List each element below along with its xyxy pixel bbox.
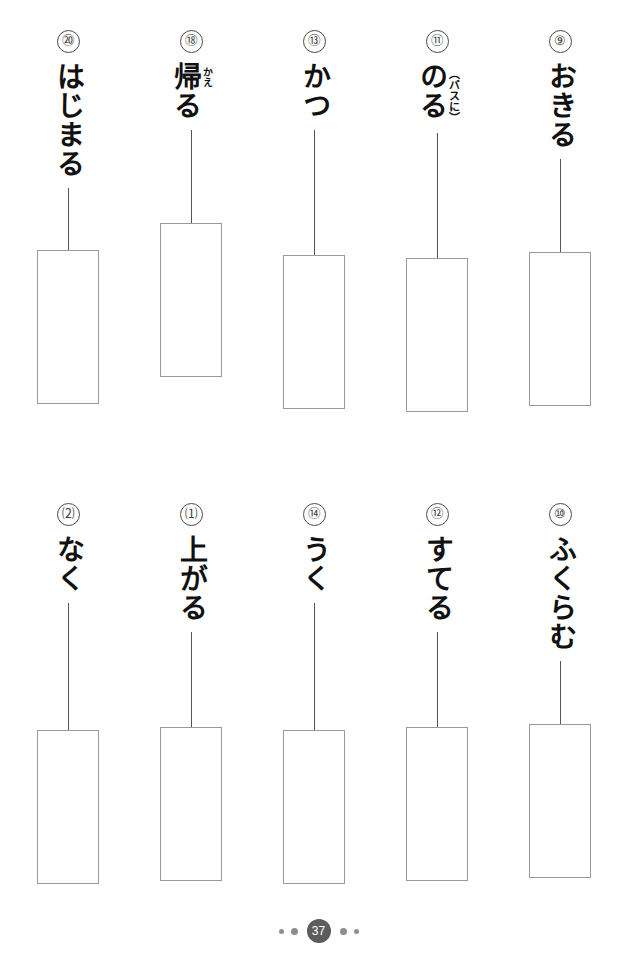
item-word: 帰る [170,62,201,120]
item-word: 上がる [175,535,206,622]
answer-box[interactable] [160,727,222,881]
item-number-badge: ⑪ [426,30,449,53]
footer-dot-small-right [354,929,359,934]
item-word-group: 上がる [175,535,206,622]
answer-box[interactable] [529,252,591,406]
exercise-item-10: ⑩ ふくらむ [500,503,620,878]
answer-box[interactable] [283,255,345,409]
item-word-group: かえ 帰る [170,62,212,120]
item-word: うく [298,535,329,593]
answer-box[interactable] [283,730,345,884]
connector-line [560,159,561,252]
item-furigana: かえ [201,67,212,87]
answer-box[interactable] [160,223,222,377]
item-word-group: おきる [544,62,575,149]
item-word: ふくらむ [544,535,575,651]
answer-box[interactable] [37,730,99,884]
item-number-badge: ⑫ [426,503,449,526]
answer-box[interactable] [406,258,468,412]
worksheet-page: ⑳ はじまる ⑱ かえ 帰る ⑬ かつ [0,0,637,971]
footer-dot-medium-right [340,928,347,935]
item-number-badge: ⑴ [180,503,203,526]
answer-box[interactable] [37,250,99,404]
item-word-group: （バスに） のる [415,62,458,123]
connector-line [68,188,69,250]
item-word-group: ふくらむ [544,535,575,651]
item-number-badge: ⑳ [57,30,80,53]
item-word-group: かつ [298,62,329,120]
page-footer: 37 [0,919,637,943]
item-word-group: うく [298,535,329,593]
footer-dot-small-left [279,929,284,934]
answer-box[interactable] [406,727,468,881]
item-word-group: なく [52,535,83,593]
page-number-badge: 37 [307,919,331,943]
exercise-item-17: ⑳ はじまる [8,30,128,404]
item-word: かつ [298,62,329,120]
connector-line [191,130,192,223]
exercise-item-15: ⑱ かえ 帰る [131,30,251,377]
exercise-item-11: ⑪ （バスに） のる [377,30,497,412]
connector-line [68,603,69,730]
item-number-badge: ⑭ [303,503,326,526]
exercise-item-18: ⑵ なく [8,503,128,884]
exercise-item-9: ⑨ おきる [500,30,620,406]
exercise-item-16: ⑴ 上がる [131,503,251,881]
item-word: なく [52,535,83,593]
answer-box[interactable] [529,724,591,878]
item-word: おきる [544,62,575,149]
connector-line [314,603,315,730]
connector-line [560,661,561,724]
item-number-badge: ⑵ [57,503,80,526]
item-word: のる [415,62,446,120]
item-number-badge: ⑬ [303,30,326,53]
item-word: すてる [421,535,452,622]
connector-line [191,632,192,727]
item-annotation-note: （バスに） [447,68,459,123]
item-word-group: はじまる [52,62,83,178]
exercise-item-14: ⑭ うく [254,503,374,884]
connector-line [437,133,438,258]
footer-dot-medium-left [291,928,298,935]
item-number-badge: ⑩ [549,503,572,526]
connector-line [437,632,438,727]
exercise-item-13: ⑬ かつ [254,30,374,409]
connector-line [314,130,315,255]
item-number-badge: ⑱ [180,30,203,53]
item-number-badge: ⑨ [549,30,572,53]
item-word: はじまる [52,62,83,178]
item-word-group: すてる [421,535,452,622]
exercise-item-12: ⑫ すてる [377,503,497,881]
